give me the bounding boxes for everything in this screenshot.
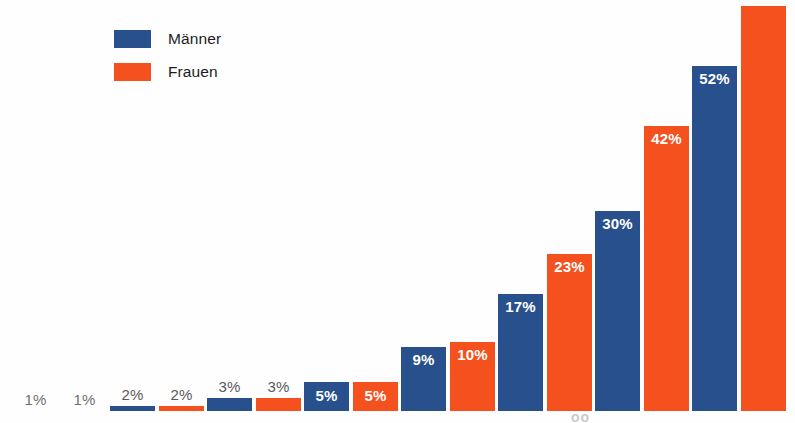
bar-wrap-women-5: 10% <box>450 342 495 411</box>
bar-wrap-men-6: 17% <box>498 294 543 411</box>
bar-label-men-2: 2% <box>110 386 155 403</box>
bar-women-8[interactable] <box>741 6 786 411</box>
bar-men-6[interactable]: 17% <box>498 294 543 411</box>
bar-label-women-1: 1% <box>62 391 107 408</box>
bar-men-7[interactable]: 30% <box>595 211 640 411</box>
bar-wrap-men-5: 9% <box>401 347 446 411</box>
bar-wrap-women-6: 23% <box>547 254 592 411</box>
bar-chart: Männer Frauen 1% 1% 2% <box>0 0 795 423</box>
bar-men-5[interactable]: 9% <box>401 347 446 411</box>
bar-women-4[interactable]: 5% <box>353 382 398 411</box>
bar-wrap-men-3: 3% <box>207 398 252 411</box>
bar-women-6[interactable]: 23% <box>547 254 592 411</box>
bar-label-men-5: 9% <box>401 351 446 368</box>
bar-group-5: 9% 10% <box>401 0 495 411</box>
bar-wrap-men-8: 52% <box>692 66 737 411</box>
bar-women-7[interactable]: 42% <box>644 126 689 411</box>
bar-label-men-6: 17% <box>498 298 543 315</box>
legend-label-frauen: Frauen <box>168 63 218 81</box>
bar-label-men-3: 3% <box>207 378 252 395</box>
bar-group-7: 30% 42% <box>595 0 689 411</box>
bar-group-1: 1% 1% <box>13 0 107 411</box>
bar-label-women-2: 2% <box>159 386 204 403</box>
bar-wrap-women-3: 3% <box>256 398 301 411</box>
bar-men-4[interactable]: 5% <box>304 382 349 411</box>
bar-label-men-8: 52% <box>692 70 737 87</box>
bar-label-men-4: 5% <box>304 387 349 404</box>
bar-label-women-5: 10% <box>450 346 495 363</box>
bar-women-3[interactable]: 3% <box>256 398 301 411</box>
bar-group-6: 17% 23% <box>498 0 592 411</box>
bar-wrap-women-2: 2% <box>159 406 204 411</box>
bar-wrap-men-2: 2% <box>110 406 155 411</box>
chart-legend: Männer Frauen <box>114 30 221 81</box>
bar-label-women-3: 3% <box>256 378 301 395</box>
bar-wrap-men-7: 30% <box>595 211 640 411</box>
bar-men-8[interactable]: 52% <box>692 66 737 411</box>
bar-label-women-6: 23% <box>547 258 592 275</box>
legend-item-frauen: Frauen <box>114 63 221 81</box>
bar-label-women-4: 5% <box>353 387 398 404</box>
bar-label-men-1: 1% <box>13 391 58 408</box>
legend-item-maenner: Männer <box>114 30 221 48</box>
bar-wrap-women-8 <box>741 6 786 411</box>
bar-wrap-men-4: 5% <box>304 382 349 411</box>
bar-women-5[interactable]: 10% <box>450 342 495 411</box>
legend-label-maenner: Männer <box>168 30 221 48</box>
cropped-axis-label-artifact: oo <box>571 409 590 423</box>
bar-group-8: 52% <box>692 0 786 411</box>
bar-men-2[interactable]: 2% <box>110 406 155 411</box>
bar-wrap-women-7: 42% <box>644 126 689 411</box>
bar-wrap-women-4: 5% <box>353 382 398 411</box>
bar-women-2[interactable]: 2% <box>159 406 204 411</box>
bar-group-4: 5% 5% <box>304 0 398 411</box>
legend-swatch-maenner <box>114 30 151 48</box>
bar-men-3[interactable]: 3% <box>207 398 252 411</box>
bar-label-women-7: 42% <box>644 130 689 147</box>
legend-swatch-frauen <box>114 63 151 81</box>
bar-label-men-7: 30% <box>595 215 640 232</box>
